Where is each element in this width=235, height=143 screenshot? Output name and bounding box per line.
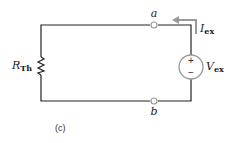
terminal-a-label: a: [151, 7, 158, 20]
resistor-label: RTh: [11, 59, 32, 73]
bottom-right-wire: [158, 79, 191, 101]
figure-caption: (c): [55, 123, 66, 133]
bottom-wire: [41, 75, 150, 101]
current-label: Iex: [199, 22, 214, 36]
circuit-diagram: + − a b Iex Vex RTh (c): [0, 0, 235, 143]
terminal-b-icon: [151, 98, 157, 104]
source-minus: −: [188, 67, 194, 78]
top-right-wire: [158, 25, 191, 55]
arrowhead-icon: [172, 16, 179, 24]
terminal-a-icon: [151, 22, 157, 28]
resistor-icon: [38, 57, 44, 75]
terminal-b-label: b: [150, 105, 157, 118]
source-plus: +: [188, 55, 194, 66]
source-label: Vex: [206, 60, 224, 74]
current-arrow-icon: [178, 20, 196, 34]
top-wire: [41, 25, 150, 57]
